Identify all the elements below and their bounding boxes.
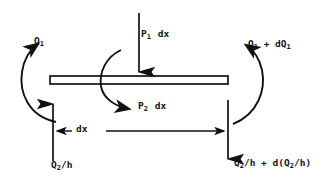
q1-dq1-moment-arc-right <box>233 45 263 124</box>
load-bottom-label: P2 dx <box>138 101 166 113</box>
beam-element <box>50 76 228 84</box>
load-top-label: P1 dx <box>141 29 169 41</box>
shear-right-label: Q2/h + d(Q2/h) <box>234 158 311 170</box>
moment-left-label: Q1 <box>34 36 44 48</box>
diagram-canvas <box>0 0 336 179</box>
moment-right-label: Q1 + dQ1 <box>248 39 291 51</box>
dimension-label: dx <box>76 124 87 134</box>
beam-free-body-diagram: Q1 P1 dx Q1 + dQ1 P2 dx dx Q2/h Q2/h + d… <box>0 0 336 179</box>
shear-left-label: Q2/h <box>51 160 72 172</box>
